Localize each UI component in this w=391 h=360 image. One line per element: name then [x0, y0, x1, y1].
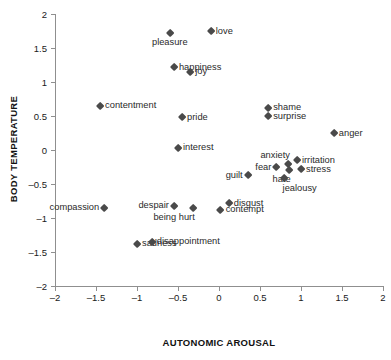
- data-point-label: stress: [306, 164, 331, 174]
- data-point-label: compassion: [50, 202, 100, 212]
- data-point-label: pleasure: [152, 37, 188, 47]
- data-point-marker: [264, 111, 273, 120]
- data-point-label: contentment: [105, 100, 156, 110]
- data-point-marker: [100, 203, 109, 212]
- data-point-marker: [178, 113, 187, 122]
- data-point-label: pride: [187, 112, 208, 122]
- data-point-label: contempt: [226, 204, 264, 214]
- data-point-marker: [169, 201, 178, 210]
- data-point-label: fear: [255, 162, 271, 172]
- data-point-label: jealousy: [283, 183, 317, 193]
- data-point-label: despair: [138, 200, 169, 210]
- data-point-label: anger: [339, 128, 363, 138]
- data-point-marker: [132, 239, 141, 248]
- data-point-label: guilt: [226, 170, 243, 180]
- data-point-label: interest: [183, 142, 214, 152]
- scatter-chart: BODY TEMPERATURE AUTONOMIC AROUSAL 21.51…: [0, 0, 391, 360]
- data-point-marker: [216, 205, 225, 214]
- data-point-marker: [169, 63, 178, 72]
- data-point-label: surprise: [273, 111, 306, 121]
- data-point-marker: [329, 128, 338, 137]
- data-point-marker: [206, 26, 215, 35]
- data-point-marker: [296, 165, 305, 174]
- data-point-marker: [243, 171, 252, 180]
- data-point-label: disappointment: [157, 236, 220, 246]
- data-point-marker: [272, 162, 281, 171]
- data-point-label: joy: [195, 66, 207, 76]
- data-point-marker: [173, 143, 182, 152]
- plot-area: lovepleasurehappinessjoycontentmentpride…: [0, 0, 391, 360]
- data-point-marker: [96, 101, 105, 110]
- data-point-marker: [292, 156, 301, 165]
- data-point-label: anxiety: [260, 150, 289, 160]
- data-point-label: love: [216, 26, 233, 36]
- data-point-label: being hurt: [153, 212, 194, 222]
